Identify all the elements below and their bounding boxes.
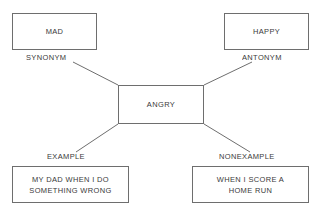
connector-example-line [76,124,118,152]
center-text-angry: ANGRY [147,99,175,111]
connector-antonym-line [204,62,252,85]
node-text-nonexample: WHEN I SCORE A HOME RUN [217,173,284,196]
node-box-example: MY DAD WHEN I DO SOMETHING WRONG [12,166,129,203]
label-nonexample: NONEXAMPLE [219,152,275,161]
node-box-antonym: HAPPY [224,13,309,50]
connector-synonym-line [73,62,118,85]
word-map-diagram: MAD HAPPY ANGRY MY DAD WHEN I DO SOMETHI… [0,0,322,215]
node-text-happy: HAPPY [253,26,280,38]
label-synonym: SYNONYM [26,53,66,62]
node-text-example: MY DAD WHEN I DO SOMETHING WRONG [29,173,111,196]
node-box-synonym: MAD [12,13,97,50]
node-text-mad: MAD [46,26,64,38]
connector-nonexample-line [204,124,250,152]
label-example: EXAMPLE [47,152,85,161]
label-antonym: ANTONYM [242,53,282,62]
node-box-nonexample: WHEN I SCORE A HOME RUN [192,166,309,203]
center-box-angry: ANGRY [118,85,204,124]
